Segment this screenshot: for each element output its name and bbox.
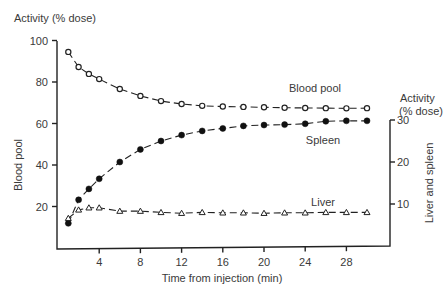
right-tick-label: 30 [397, 114, 409, 126]
left-tick-label: 60 [36, 118, 48, 130]
x-tick-label: 24 [299, 256, 311, 268]
spleen-point [65, 220, 71, 226]
spleen-point [86, 186, 92, 192]
spleen-point [137, 146, 143, 152]
left-tick-label: 40 [36, 159, 48, 171]
blood-pool-point [86, 71, 91, 76]
right-tick-label: 20 [397, 156, 409, 168]
x-tick-label: 12 [175, 256, 187, 268]
left-tick-label: 100 [30, 35, 48, 47]
blood-pool-point [220, 104, 225, 109]
blood-pool-point [303, 105, 308, 110]
blood-pool-point [138, 93, 143, 98]
blood-pool-point [76, 64, 81, 69]
spleen-point [240, 123, 246, 129]
x-tick-label: 16 [217, 256, 229, 268]
x-tick-label: 20 [258, 256, 270, 268]
x-axis-label: Time from injection (min) [162, 272, 283, 284]
left-ticks: 20406080100 [30, 35, 57, 213]
right-tick-label: 10 [397, 198, 409, 210]
blood-pool-point [158, 98, 163, 103]
blood-pool-point [117, 86, 122, 91]
annotation-spleen: Spleen [306, 134, 340, 146]
chart: Activity (% dose) Blood pool Activity (%… [0, 0, 445, 298]
right-ticks: 102030 [390, 114, 409, 210]
x-ticks: 481216202428 [96, 246, 352, 268]
spleen-point [364, 118, 370, 124]
blood-pool-line [68, 52, 367, 108]
blood-pool-point [364, 106, 369, 111]
blood-pool-point [241, 104, 246, 109]
spleen-point [199, 128, 205, 134]
left-axis-label: Blood pool [12, 139, 24, 191]
spleen-point [76, 197, 82, 203]
blood-pool-point [66, 49, 71, 54]
x-tick-label: 8 [137, 256, 143, 268]
spleen-point [282, 122, 288, 128]
liver-point [96, 205, 102, 210]
blood-pool-point [282, 105, 287, 110]
spleen-point [117, 159, 123, 165]
liver-line [68, 208, 367, 219]
annotation-blood-pool: Blood pool [289, 82, 341, 94]
blood-pool-point [200, 103, 205, 108]
blood-pool-point [179, 101, 184, 106]
spleen-point [158, 138, 164, 144]
blood-pool-point [261, 105, 266, 110]
spleen-point [302, 121, 308, 127]
spleen-point [323, 118, 329, 124]
spleen-point [343, 118, 349, 124]
annotation-liver: Liver [311, 196, 335, 208]
left-axis-title: Activity (% dose) [14, 12, 96, 24]
x-tick-label: 4 [96, 256, 102, 268]
left-tick-label: 20 [36, 201, 48, 213]
spleen-point [261, 122, 267, 128]
blood-pool-point [344, 106, 349, 111]
spleen-point [220, 125, 226, 131]
left-tick-label: 80 [36, 76, 48, 88]
spleen-point [96, 176, 102, 182]
blood-pool-point [323, 106, 328, 111]
spleen-point [179, 132, 185, 138]
x-tick-label: 28 [340, 256, 352, 268]
blood-pool-point [97, 76, 102, 81]
right-axis-title-line1: Activity [400, 92, 435, 104]
right-axis-label: Liver and spleen [423, 143, 435, 224]
